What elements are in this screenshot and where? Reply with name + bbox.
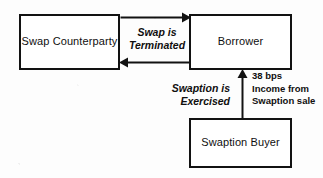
edge-label-swaption-exercised: Swaption is Exercised: [150, 82, 230, 108]
flow-diagram: Swap Counterparty Borrower Swaption Buye…: [0, 0, 323, 178]
edge-swap-terminated-reverse: [119, 58, 190, 68]
node-swaption-buyer-label: Swaption Buyer: [201, 136, 279, 149]
edge-label-swap-terminated: Swap is Terminated: [124, 26, 190, 52]
annotation-swaption-income: 38 bps Income from Swaption sale: [252, 70, 318, 108]
node-borrower: Borrower: [189, 14, 292, 70]
node-swap-counterparty: Swap Counterparty: [19, 14, 120, 70]
edge-swaption-exercised: [238, 69, 248, 118]
edge-swap-terminated-forward: [121, 13, 192, 23]
node-swap-counterparty-label: Swap Counterparty: [22, 35, 118, 48]
node-borrower-label: Borrower: [218, 35, 263, 48]
node-swaption-buyer: Swaption Buyer: [189, 118, 292, 168]
